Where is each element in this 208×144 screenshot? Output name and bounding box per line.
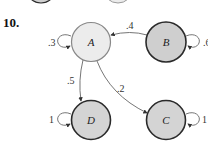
node-A: A [72,23,111,62]
edge-label-B-A: .4 [126,20,134,31]
node-label-B: B [163,36,170,48]
edge-B-to-A: .4 [111,20,147,35]
node-label-D: D [86,114,95,126]
node-D: D [72,101,111,140]
cropped-previous-nodes [27,0,132,3]
self-loop-D: 1 [49,113,71,126]
edge-label-A-C: .2 [117,83,125,94]
node-label-A: A [87,36,95,48]
self-loop-label-B: .6 [203,37,208,48]
node-label-C: C [162,114,170,126]
edge-label-A-D: .5 [67,75,75,86]
self-loop-A: .3 [48,35,71,48]
node-C: C [147,101,186,140]
self-loop-B: .6 [186,35,208,48]
node-B: B [146,22,186,62]
self-loop-label-C: 1 [202,114,207,125]
self-loop-label-D: 1 [49,114,54,125]
edge-A-to-D: .5 [67,60,83,101]
self-loop-label-A: .3 [48,37,56,48]
self-loop-C: 1 [186,113,207,126]
markov-chain-diagram: .4 .5 .2 .3 .6 1 1 A B D C [0,0,208,144]
